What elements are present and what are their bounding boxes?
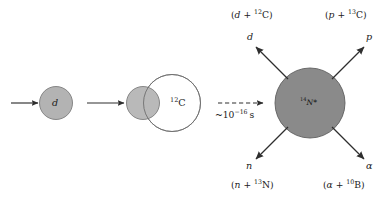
paren-close: ) xyxy=(270,179,274,190)
exit-channel-label-deuteron: (d + 12C) xyxy=(231,10,273,19)
channel-element-symbol: N xyxy=(262,179,270,190)
overlapping-deuteron-circle xyxy=(127,87,160,120)
plus-sign: + xyxy=(333,179,347,190)
channel-mass-number: 12 xyxy=(254,8,262,15)
target-carbon12-label: 12C xyxy=(170,98,186,108)
particle-label-proton: p xyxy=(366,32,372,42)
decay-arrow-neutron xyxy=(256,127,288,159)
exit-channel-label-proton: (p + 13C) xyxy=(325,10,367,19)
exit-channel-label-neutron: (n + 13N) xyxy=(231,180,274,189)
plus-sign: + xyxy=(241,179,255,190)
time-exponent: −16 xyxy=(234,108,247,115)
channel-mass-number: 13 xyxy=(254,178,262,185)
paren-close: ) xyxy=(361,179,365,190)
target-element-symbol: C xyxy=(178,97,185,108)
channel-element-symbol: C xyxy=(356,9,363,20)
exit-channel-label-alpha: (α + 10B) xyxy=(323,180,365,189)
particle-label-alpha: α xyxy=(366,161,372,171)
interaction-time-label: ~10−16 s xyxy=(215,110,254,119)
compound-nucleus-label: 14N* xyxy=(300,99,317,107)
decay-arrow-alpha xyxy=(332,127,364,159)
particle-label-neutron: n xyxy=(246,161,252,171)
paren-close: ) xyxy=(269,9,273,20)
plus-sign: + xyxy=(334,9,348,20)
decay-arrow-deuteron xyxy=(256,47,288,79)
decay-arrow-proton xyxy=(332,47,364,79)
projectile-label: d xyxy=(52,98,58,108)
time-unit: s xyxy=(249,109,254,120)
reaction-diagram: d 12C ~10−16 s 14N* d p n α (d + 12C) (p… xyxy=(0,0,382,201)
plus-sign: + xyxy=(240,9,254,20)
nucleus-excitation-marker: * xyxy=(313,98,317,107)
paren-close: ) xyxy=(363,9,367,20)
time-mantissa: ~10 xyxy=(215,109,234,120)
particle-label-deuteron: d xyxy=(247,32,253,42)
channel-element-symbol: C xyxy=(262,9,269,20)
channel-mass-number: 13 xyxy=(348,8,356,15)
